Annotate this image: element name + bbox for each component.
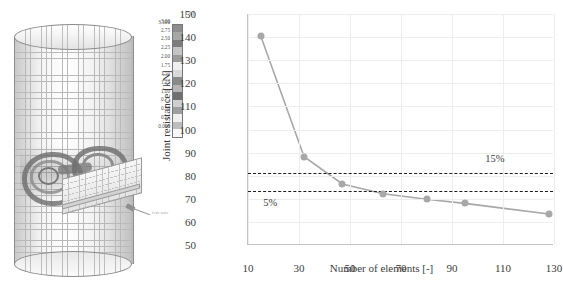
y-tick-label-0: 50 [156, 239, 196, 251]
data-point-2 [339, 181, 346, 188]
tube-bottom-rim [14, 251, 132, 277]
gridline-y-7 [248, 83, 553, 84]
legend-band-12 [173, 114, 182, 121]
data-point-1 [301, 153, 308, 160]
gridline-y-10 [248, 14, 553, 15]
reference-label-15pct: 15% [485, 153, 504, 164]
annotation-leader-line [133, 208, 150, 215]
data-point-0 [257, 32, 264, 39]
plot-area: 1030507090110130506070809010011012013014… [247, 14, 553, 245]
data-point-6 [545, 211, 552, 218]
reference-line-15pct [248, 173, 553, 174]
y-tick-label-5: 100 [156, 124, 196, 136]
gridline-y-2 [248, 199, 553, 200]
y-tick-label-1: 60 [156, 216, 196, 228]
y-tick-label-6: 110 [156, 100, 196, 112]
series-polyline [261, 36, 549, 214]
gridline-x-6 [554, 14, 555, 244]
legend-band-9 [173, 92, 182, 99]
x-tick-label-1: 30 [279, 262, 319, 274]
y-tick-label-8: 130 [156, 54, 196, 66]
y-tick-label-3: 80 [156, 170, 196, 182]
gridline-y-1 [248, 222, 553, 223]
gridline-y-9 [248, 37, 553, 38]
fem-viewport: fem-note [8, 18, 140, 283]
tube-mesh [14, 24, 132, 276]
x-tick-label-6: 130 [534, 262, 563, 274]
y-tick-label-10: 150 [156, 8, 196, 20]
x-tick-label-4: 90 [432, 262, 472, 274]
y-tick-label-7: 120 [156, 77, 196, 89]
x-tick-label-0: 10 [228, 262, 268, 274]
reference-line-5pct [248, 191, 553, 192]
data-point-5 [461, 200, 468, 207]
gridline-y-3 [248, 176, 553, 177]
x-tick-label-2: 50 [330, 262, 370, 274]
y-tick-label-2: 70 [156, 193, 196, 205]
reference-label-5pct: 5% [263, 197, 277, 208]
gridline-y-5 [248, 130, 553, 131]
figure-container: fem-note [%] 3.100 3.002.752.502.252.001… [0, 0, 563, 293]
tube-shell-mesh [14, 36, 134, 264]
data-point-4 [423, 196, 430, 203]
y-tick-label-4: 90 [156, 147, 196, 159]
y-tick-label-9: 140 [156, 31, 196, 43]
gridline-y-8 [248, 60, 553, 61]
x-tick-label-3: 70 [381, 262, 421, 274]
tube-top-rim [14, 24, 132, 50]
data-point-3 [380, 190, 387, 197]
legend-band-6 [173, 70, 182, 77]
x-tick-label-5: 110 [483, 262, 523, 274]
gridline-y-6 [248, 106, 553, 107]
convergence-chart-panel: Joint resistance [kN] Number of elements… [200, 0, 563, 293]
gridline-y-4 [248, 153, 553, 154]
